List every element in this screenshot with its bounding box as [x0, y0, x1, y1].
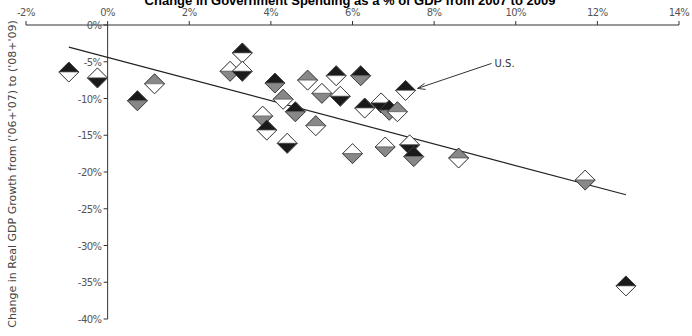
country-flag-marker	[575, 170, 595, 190]
country-flag-marker	[127, 91, 147, 111]
x-tick-label: 0%	[100, 7, 115, 18]
country-flag-marker	[277, 133, 297, 153]
country-flag-marker	[59, 62, 79, 82]
y-tick-label: 0%	[87, 20, 102, 31]
x-axis: -2%0%2%4%6%8%10%12%14%	[17, 7, 689, 25]
country-flag-marker	[351, 66, 371, 86]
y-axis-label: Change in Real GDP Growth from ('06+'07)…	[6, 20, 19, 328]
x-tick-label: 12%	[587, 7, 608, 18]
x-tick-label: -2%	[17, 7, 35, 18]
country-flag-marker	[375, 137, 395, 157]
country-flag-marker	[343, 144, 363, 164]
country-flag-marker	[330, 86, 350, 106]
x-tick-label: 8%	[427, 7, 442, 18]
country-flag-marker	[298, 70, 318, 90]
y-tick-label: -35%	[78, 277, 102, 288]
country-flag-marker	[396, 80, 416, 100]
scatter-chart: Change in Government Spending as a % of …	[0, 0, 692, 336]
country-flag-marker	[306, 116, 326, 136]
country-flag-marker	[355, 98, 375, 118]
country-flag-marker	[449, 148, 469, 168]
y-tick-label: -15%	[78, 130, 102, 141]
data-points	[59, 43, 636, 296]
y-tick-label: -10%	[78, 94, 102, 105]
y-tick-label: -25%	[78, 204, 102, 215]
annotations: U.S.	[418, 58, 515, 89]
x-tick-label: 10%	[505, 7, 526, 18]
y-axis: 0%-5%-10%-15%-20%-25%-30%-35%-40%	[78, 20, 108, 325]
y-tick-label: -30%	[78, 241, 102, 252]
trend-line	[69, 47, 626, 195]
us-annotation-label: U.S.	[495, 58, 515, 69]
y-tick-label: -40%	[78, 314, 102, 325]
country-flag-marker	[616, 276, 636, 296]
country-flag-marker	[232, 43, 252, 63]
x-tick-label: 2%	[182, 7, 197, 18]
country-flag-marker	[87, 68, 107, 88]
y-tick-label: -20%	[78, 167, 102, 178]
y-tick-label: -5%	[84, 57, 102, 68]
x-tick-label: 4%	[263, 7, 278, 18]
country-flag-marker	[145, 74, 165, 94]
country-flag-marker	[312, 83, 332, 103]
country-flag-marker	[232, 61, 252, 81]
x-tick-label: 14%	[669, 7, 690, 18]
x-tick-label: 6%	[345, 7, 360, 18]
country-flag-marker	[326, 66, 346, 86]
